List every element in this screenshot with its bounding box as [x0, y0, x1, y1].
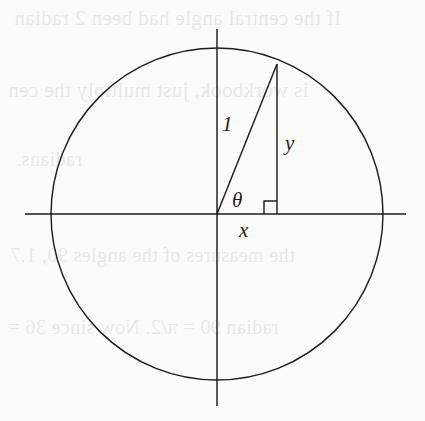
vertical-leg-label: y	[285, 133, 294, 154]
figure-drawing	[0, 0, 425, 421]
right-angle-marker-icon	[264, 201, 277, 214]
unit-circle-figure: If the central angle had been 2 radian i…	[0, 0, 425, 421]
hypotenuse-label: 1	[222, 114, 233, 135]
angle-theta-label: θ	[232, 190, 242, 211]
horizontal-leg-label: x	[239, 220, 248, 241]
radius-hypotenuse-line	[217, 64, 277, 214]
